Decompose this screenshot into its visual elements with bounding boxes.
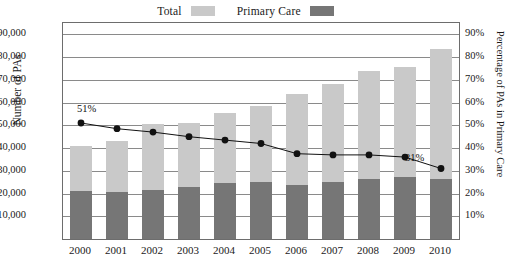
- y2-tick-label: 10%: [465, 210, 505, 220]
- x-tick-label: 2003: [170, 244, 206, 256]
- bar-group: [178, 23, 200, 239]
- legend-item-primary-care: Primary Care: [237, 5, 334, 17]
- bar-primary-care: [322, 182, 344, 239]
- bar-primary-care: [178, 187, 200, 239]
- legend-label-primary-care: Primary Care: [237, 5, 301, 17]
- bar-primary-care: [70, 191, 92, 239]
- x-tick-label: 2004: [206, 244, 242, 256]
- bar-primary-care: [214, 183, 236, 239]
- bar-group: [394, 23, 416, 239]
- annotation-label: 51%: [77, 103, 96, 114]
- plot-area: 51%31%: [62, 22, 460, 240]
- legend-swatch-primary-care: [310, 6, 334, 16]
- x-tick-label: 2007: [314, 244, 350, 256]
- y-tick-label: 20,000: [0, 188, 26, 198]
- y-tick-label: 70,000: [0, 74, 26, 84]
- bar-primary-care: [358, 179, 380, 239]
- bar-primary-care: [286, 185, 308, 239]
- y2-tick-label: 40%: [465, 142, 505, 152]
- y-tick-label: 40,000: [0, 142, 26, 152]
- bar-group: [322, 23, 344, 239]
- y-axis-left-title: Number of PAs: [11, 25, 25, 155]
- legend-item-total: Total: [157, 5, 214, 17]
- bar-group: [214, 23, 236, 239]
- y-tick-label: 80,000: [0, 51, 26, 61]
- y2-tick-label: 50%: [465, 119, 505, 129]
- y-tick-label: 50,000: [0, 119, 26, 129]
- bar-primary-care: [250, 182, 272, 239]
- x-axis-labels: 2000200120022003200420052006200720082009…: [62, 244, 460, 262]
- x-tick-label: 2010: [422, 244, 458, 256]
- x-tick-label: 2009: [386, 244, 422, 256]
- y2-tick-label: 70%: [465, 74, 505, 84]
- bar-group: [142, 23, 164, 239]
- bar-group: [358, 23, 380, 239]
- y2-tick-label: 80%: [465, 51, 505, 61]
- y2-tick-label: 20%: [465, 188, 505, 198]
- x-tick-label: 2002: [134, 244, 170, 256]
- y-tick-label: 30,000: [0, 165, 26, 175]
- x-tick-label: 2001: [98, 244, 134, 256]
- legend-spacer: [215, 11, 237, 12]
- bar-primary-care: [394, 177, 416, 240]
- bar-group: [106, 23, 128, 239]
- bar-group: [250, 23, 272, 239]
- bar-series-group: [63, 23, 459, 239]
- bar-group: [286, 23, 308, 239]
- y-tick-label: 60,000: [0, 97, 26, 107]
- y-tick-label: 10,000: [0, 210, 26, 220]
- legend-swatch-total: [191, 6, 215, 16]
- annotation-label: 31%: [405, 152, 424, 163]
- y-tick-label: 90,000: [0, 28, 26, 38]
- y2-tick-label: 30%: [465, 165, 505, 175]
- bar-primary-care: [106, 192, 128, 239]
- x-tick-label: 2000: [62, 244, 98, 256]
- chart-legend: Total Primary Care: [0, 2, 491, 20]
- bar-primary-care: [142, 190, 164, 239]
- x-tick-label: 2006: [278, 244, 314, 256]
- legend-label-total: Total: [157, 5, 181, 17]
- bar-group: [430, 23, 452, 239]
- bar-group: [70, 23, 92, 239]
- y2-tick-label: 60%: [465, 97, 505, 107]
- x-tick-label: 2008: [350, 244, 386, 256]
- y2-tick-label: 90%: [465, 28, 505, 38]
- x-tick-label: 2005: [242, 244, 278, 256]
- bar-primary-care: [430, 179, 452, 239]
